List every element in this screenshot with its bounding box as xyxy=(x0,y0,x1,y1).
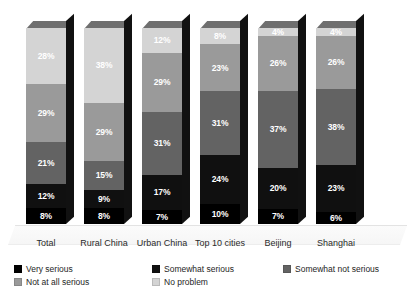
bar-side-face xyxy=(356,14,364,224)
bar-segment[interactable]: 9% xyxy=(84,190,124,208)
bar-segment[interactable]: 4% xyxy=(258,28,298,36)
bar-group: 38%29%15%9%8% xyxy=(84,28,132,224)
bar-segment-value-label: 20% xyxy=(270,184,287,193)
bar-segment-value-label: 24% xyxy=(212,175,229,184)
bar-segment-value-label: 31% xyxy=(212,119,229,128)
bar-side-face xyxy=(240,14,248,224)
bar-segment-value-label: 4% xyxy=(330,28,342,36)
bar-column[interactable]: 12%29%31%17%7% xyxy=(142,28,190,224)
bar-segment[interactable]: 8% xyxy=(84,208,124,224)
bar-group: 8%23%31%24%10% xyxy=(200,28,248,224)
bar-front-face: 28%29%21%12%8% xyxy=(26,28,66,224)
bar-segment-value-label: 7% xyxy=(272,212,284,221)
bar-segment[interactable]: 8% xyxy=(200,28,240,44)
bar-segment-value-label: 28% xyxy=(38,52,55,61)
bar-group: 4%26%37%20%7% xyxy=(258,28,306,224)
bar-segment[interactable]: 29% xyxy=(84,103,124,160)
bar-segment-value-label: 31% xyxy=(154,139,171,148)
bar-segment-value-label: 17% xyxy=(154,188,171,197)
bar-front-face: 4%26%37%20%7% xyxy=(258,28,298,224)
bar-segment-value-label: 37% xyxy=(270,125,287,134)
bar-group: 4%26%38%23%6% xyxy=(316,28,364,224)
bar-segment[interactable]: 12% xyxy=(142,28,182,53)
bar-segment-value-label: 8% xyxy=(214,32,226,41)
bar-segment[interactable]: 7% xyxy=(142,210,182,224)
bar-segment[interactable]: 31% xyxy=(142,112,182,175)
bar-segment-value-label: 29% xyxy=(38,109,55,118)
bar-segment[interactable]: 38% xyxy=(316,89,356,166)
bar-column[interactable]: 38%29%15%9%8% xyxy=(84,28,132,224)
bar-segment[interactable]: 12% xyxy=(26,184,66,208)
bar-side-face xyxy=(124,14,132,224)
bar-segment-value-label: 26% xyxy=(328,58,345,67)
bar-segment[interactable]: 29% xyxy=(142,53,182,112)
plot-area: 28%29%21%12%8%38%29%15%9%8%12%29%31%17%7… xyxy=(0,0,407,232)
bar-segment-value-label: 38% xyxy=(328,123,345,132)
bar-segment[interactable]: 26% xyxy=(258,36,298,90)
bar-segment[interactable]: 26% xyxy=(316,36,356,89)
bar-segment-value-label: 23% xyxy=(328,184,345,193)
bar-segment-value-label: 15% xyxy=(96,171,113,180)
bar-segment-value-label: 26% xyxy=(270,59,287,68)
bar-front-face: 38%29%15%9%8% xyxy=(84,28,124,224)
bar-group: 12%29%31%17%7% xyxy=(142,28,190,224)
legend-item[interactable]: Very serious xyxy=(14,264,73,274)
bar-segment-value-label: 12% xyxy=(154,36,171,45)
bar-segment-value-label: 12% xyxy=(38,192,55,201)
legend-label: No problem xyxy=(164,277,208,287)
bar-group: 28%29%21%12%8% xyxy=(26,28,74,224)
bar-segment[interactable]: 20% xyxy=(258,168,298,210)
bar-segment-value-label: 38% xyxy=(96,61,113,70)
x-axis-category-label: Shanghai xyxy=(302,238,370,248)
bar-segment-value-label: 29% xyxy=(96,128,113,137)
bar-segment-value-label: 29% xyxy=(154,78,171,87)
bar-segment-value-label: 8% xyxy=(40,212,52,221)
legend-color-swatch xyxy=(14,265,22,273)
legend-item[interactable]: Somewhat not serious xyxy=(283,264,379,274)
bar-segment[interactable]: 28% xyxy=(26,28,66,84)
bar-segment[interactable]: 8% xyxy=(26,208,66,224)
bar-front-face: 8%23%31%24%10% xyxy=(200,28,240,224)
bar-segment[interactable]: 15% xyxy=(84,161,124,191)
legend-label: Somewhat not serious xyxy=(295,264,379,274)
legend-label: Very serious xyxy=(26,264,73,274)
stacked-bar-chart: 28%29%21%12%8%38%29%15%9%8%12%29%31%17%7… xyxy=(0,0,407,295)
legend-item[interactable]: Somewhat serious xyxy=(152,264,234,274)
legend-color-swatch xyxy=(14,278,22,286)
bar-column[interactable]: 4%26%37%20%7% xyxy=(258,28,306,224)
bar-segment[interactable]: 10% xyxy=(200,204,240,224)
bar-segment[interactable]: 7% xyxy=(258,209,298,224)
bar-column[interactable]: 28%29%21%12%8% xyxy=(26,28,74,224)
bar-segment[interactable]: 37% xyxy=(258,91,298,168)
bar-segment[interactable]: 21% xyxy=(26,142,66,184)
bar-column[interactable]: 4%26%38%23%6% xyxy=(316,28,364,224)
legend-item[interactable]: No problem xyxy=(152,277,208,287)
bar-segment[interactable]: 23% xyxy=(316,165,356,211)
bar-segment[interactable]: 24% xyxy=(200,155,240,204)
bar-segment[interactable]: 17% xyxy=(142,175,182,210)
bar-side-face xyxy=(182,14,190,224)
bar-side-face xyxy=(66,14,74,224)
bar-segment[interactable]: 38% xyxy=(84,28,124,103)
bar-segment[interactable]: 29% xyxy=(26,84,66,142)
chart-legend: Very seriousNot at all seriousSomewhat s… xyxy=(0,262,407,295)
bar-segment-value-label: 6% xyxy=(330,214,342,223)
bar-segment[interactable]: 6% xyxy=(316,212,356,224)
bar-segment-value-label: 23% xyxy=(212,64,229,73)
bar-column[interactable]: 8%23%31%24%10% xyxy=(200,28,248,224)
bar-segment[interactable]: 4% xyxy=(316,28,356,36)
bar-segment-value-label: 4% xyxy=(272,28,284,36)
legend-color-swatch xyxy=(283,265,291,273)
legend-label: Somewhat serious xyxy=(164,264,234,274)
bar-segment[interactable]: 23% xyxy=(200,44,240,91)
bar-segment[interactable]: 31% xyxy=(200,91,240,154)
bar-front-face: 4%26%38%23%6% xyxy=(316,28,356,224)
bar-side-face xyxy=(298,14,306,224)
bar-segment-value-label: 21% xyxy=(38,159,55,168)
legend-color-swatch xyxy=(152,265,160,273)
legend-label: Not at all serious xyxy=(26,277,89,287)
bar-segment-value-label: 8% xyxy=(98,212,110,221)
legend-item[interactable]: Not at all serious xyxy=(14,277,89,287)
legend-color-swatch xyxy=(152,278,160,286)
bar-segment-value-label: 9% xyxy=(98,195,110,204)
